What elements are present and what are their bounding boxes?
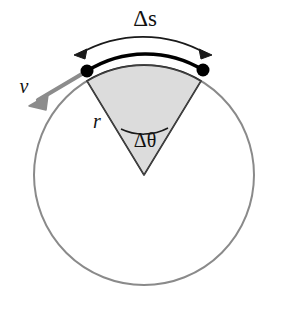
- arc-measure-right-arrowhead: [199, 49, 212, 59]
- arc-measure-left-arrowhead: [74, 49, 87, 59]
- right-point-marker: [197, 64, 210, 77]
- left-point-marker: [81, 65, 94, 78]
- circular-motion-figure: Δs r Δθ v: [0, 0, 282, 317]
- radius-label: r: [93, 110, 101, 132]
- arc-length-label: Δs: [133, 6, 157, 31]
- sector-wedge: [87, 65, 201, 175]
- diagram-canvas: Δs r Δθ v: [0, 0, 282, 317]
- angle-label: Δθ: [134, 129, 156, 151]
- arc-length-measure-line: [79, 37, 207, 54]
- velocity-label: v: [20, 75, 29, 97]
- velocity-vector-arrowhead: [29, 95, 48, 110]
